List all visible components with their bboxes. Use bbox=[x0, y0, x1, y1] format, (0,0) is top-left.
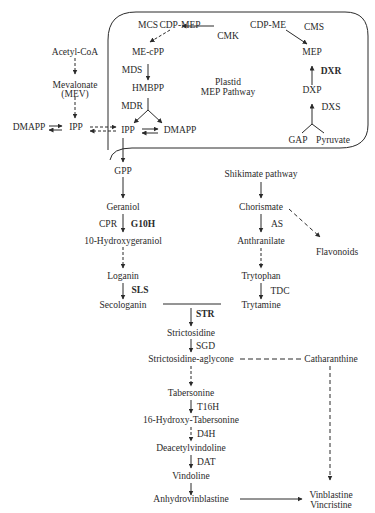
enzyme-dxr: DXR bbox=[321, 66, 342, 77]
node-tabersonine: Tabersonine bbox=[168, 388, 214, 399]
node-gpp: GPP bbox=[114, 166, 131, 177]
enzyme-dxs: DXS bbox=[321, 102, 340, 113]
node-pyruvate: Pyruvate bbox=[316, 135, 350, 146]
node-mep: MEP bbox=[302, 47, 322, 58]
node-strictosidine: Strictosidine bbox=[167, 328, 215, 339]
enzyme-mds: MDS bbox=[122, 65, 143, 76]
node-catharanthine: Catharanthine bbox=[304, 354, 357, 365]
node-chorismate: Chorismate bbox=[239, 202, 283, 213]
enzyme-t16h: T16H bbox=[197, 402, 219, 413]
enzyme-mcs: MCS bbox=[138, 20, 158, 31]
node-cdp-mep: CDP-MEP bbox=[159, 20, 200, 31]
enzyme-cpr: CPR bbox=[99, 219, 117, 230]
node-vindoline: Vindoline bbox=[172, 471, 209, 482]
node-gap: GAP bbox=[288, 135, 307, 146]
node-acetyl-coa: Acetyl-CoA bbox=[52, 47, 98, 58]
node-loganin: Loganin bbox=[107, 271, 139, 282]
mep-pathway-label: MEP Pathway bbox=[201, 87, 255, 98]
node-geraniol: Geraniol bbox=[106, 202, 139, 213]
enzyme-cmk: CMK bbox=[217, 31, 239, 42]
node-anhydrovinblastine: Anhydrovinblastine bbox=[153, 494, 228, 505]
node-shikimate-pathway: Shikimate pathway bbox=[224, 169, 297, 180]
enzyme-d4h: D4H bbox=[197, 429, 215, 440]
node-10-hydroxygeraniol: 10-Hydroxygeraniol bbox=[84, 236, 162, 247]
node-hmbpp: HMBPP bbox=[132, 83, 164, 94]
enzyme-sls: SLS bbox=[132, 285, 149, 296]
enzyme-g10h: G10H bbox=[131, 219, 155, 230]
enzyme-cms: CMS bbox=[304, 22, 324, 33]
node-mev: (MEV) bbox=[61, 89, 88, 100]
node-me-cpp: ME-cPP bbox=[132, 47, 164, 58]
enzyme-sgd: SGD bbox=[196, 341, 215, 352]
node-16-hydroxy-tabersonine: 16-Hydroxy-Tabersonine bbox=[143, 415, 239, 426]
node-dmapp-cytosol: DMAPP bbox=[13, 122, 46, 133]
node-dmapp-plastid: DMAPP bbox=[164, 125, 197, 136]
node-trytophan: Trytophan bbox=[241, 271, 280, 282]
node-anthranilate: Anthranilate bbox=[237, 236, 284, 247]
enzyme-tdc: TDC bbox=[271, 286, 290, 297]
node-ipp-plastid: IPP bbox=[121, 125, 135, 136]
enzyme-dat: DAT bbox=[197, 457, 215, 468]
enzyme-mdr: MDR bbox=[121, 101, 143, 112]
enzyme-as: AS bbox=[271, 219, 283, 230]
node-flavonoids: Flavonoids bbox=[316, 247, 358, 258]
node-dxp: DXP bbox=[302, 85, 321, 96]
node-strictosidine-aglycone: Strictosidine-aglycone bbox=[148, 354, 233, 365]
node-cdp-me: CDP-ME bbox=[250, 20, 286, 31]
node-deacetylvindoline: Deacetylvindoline bbox=[156, 443, 226, 454]
node-ipp-cytosol: IPP bbox=[69, 122, 83, 133]
node-vincristine: Vincristine bbox=[310, 500, 352, 511]
pathway-diagram: Plastid MEP Pathway CDP-MEP CDP-ME ME-cP… bbox=[0, 0, 375, 513]
node-trytamine: Trytamine bbox=[241, 300, 280, 311]
enzyme-str: STR bbox=[196, 309, 214, 320]
node-secologanin: Secologanin bbox=[100, 300, 147, 311]
